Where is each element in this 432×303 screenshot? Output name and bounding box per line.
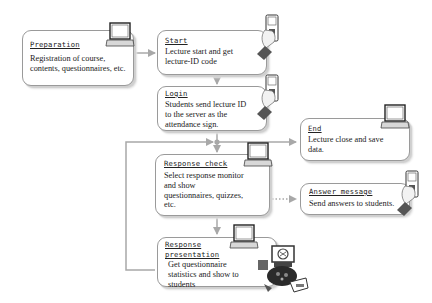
node-description: Students send lecture ID to the server a… (165, 100, 247, 129)
node-title: Response presentation (165, 240, 219, 260)
node-description: Registration of course, contents, questi… (30, 54, 128, 74)
node-description: Get questionnaire statistics and show to… (168, 260, 246, 289)
node-title: Response check (164, 159, 227, 169)
mobile-phone-hand-icon (256, 14, 282, 64)
laptop-icon (229, 224, 259, 250)
node-title: Login (165, 89, 188, 99)
node-login: Login Students send lecture ID to the se… (157, 86, 267, 131)
node-start: Start Lecture start and get lecture-ID c… (157, 30, 267, 75)
node-description: Select response monitor and show questio… (164, 171, 244, 210)
node-title: End (308, 124, 322, 134)
node-answer-message: Answer message Send answers to students. (300, 183, 410, 215)
node-title: Answer message (309, 187, 372, 197)
node-title: Preparation (30, 40, 80, 50)
node-title: Start (165, 36, 188, 46)
laptop-icon (380, 104, 410, 130)
node-description: Lecture start and get lecture-ID code (165, 47, 253, 67)
laptop-icon (243, 142, 273, 168)
projector-presentation-icon (258, 244, 310, 296)
mobile-phone-hand-icon (256, 74, 282, 124)
node-description: Lecture close and save data. (308, 135, 400, 155)
laptop-icon (105, 22, 135, 48)
node-description: Send answers to students. (309, 199, 399, 209)
mobile-phone-hand-icon (396, 170, 422, 220)
